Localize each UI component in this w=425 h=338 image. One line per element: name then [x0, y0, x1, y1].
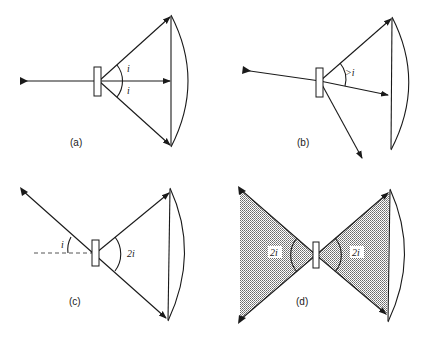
mirror	[92, 240, 99, 266]
panel-a: i i (a)	[20, 15, 188, 148]
panel-d: 2i 2i (d)	[238, 186, 405, 324]
angle-arc-incident	[68, 237, 71, 253]
reflected-ray-bottom	[99, 81, 170, 145]
screen-arc	[391, 17, 409, 150]
incoming-arrowhead	[20, 77, 28, 85]
screen-line	[168, 189, 170, 320]
panel-label-c: (c)	[69, 296, 81, 307]
angle-label-lower: i	[127, 85, 130, 96]
panel-label-d: (d)	[296, 296, 308, 307]
panel-b: >i (b)	[242, 17, 409, 158]
reflected-ray-top	[96, 193, 169, 253]
panel-c: i 2i (c)	[20, 187, 185, 321]
transmitted-ray-middle	[320, 81, 388, 95]
angle-label-right-2i: 2i	[352, 247, 360, 258]
incoming-ray	[243, 70, 320, 81]
mirror	[313, 242, 319, 268]
angle-label: >i	[345, 67, 355, 78]
angle-label-upper: i	[127, 63, 130, 74]
screen-arc	[388, 189, 405, 322]
diagram-canvas: i i (a) >i (b) i 2i (c)	[0, 0, 425, 338]
screen-line	[391, 18, 392, 149]
screen-arc	[168, 188, 185, 321]
mirror	[94, 67, 101, 96]
reflected-ray-top	[99, 17, 170, 81]
angle-arc-2i	[115, 237, 121, 271]
reflected-ray-top	[320, 19, 391, 81]
panel-label-b: (b)	[297, 137, 309, 148]
angle-label-2i: 2i	[127, 248, 135, 259]
angle-label-left-2i: 2i	[270, 247, 278, 258]
screen-arc	[171, 15, 188, 147]
panel-label-a: (a)	[70, 137, 82, 148]
reflected-ray-bottom	[320, 81, 362, 158]
angle-label-i: i	[61, 239, 64, 250]
mirror	[316, 68, 323, 97]
incoming-arrowhead	[242, 66, 251, 74]
